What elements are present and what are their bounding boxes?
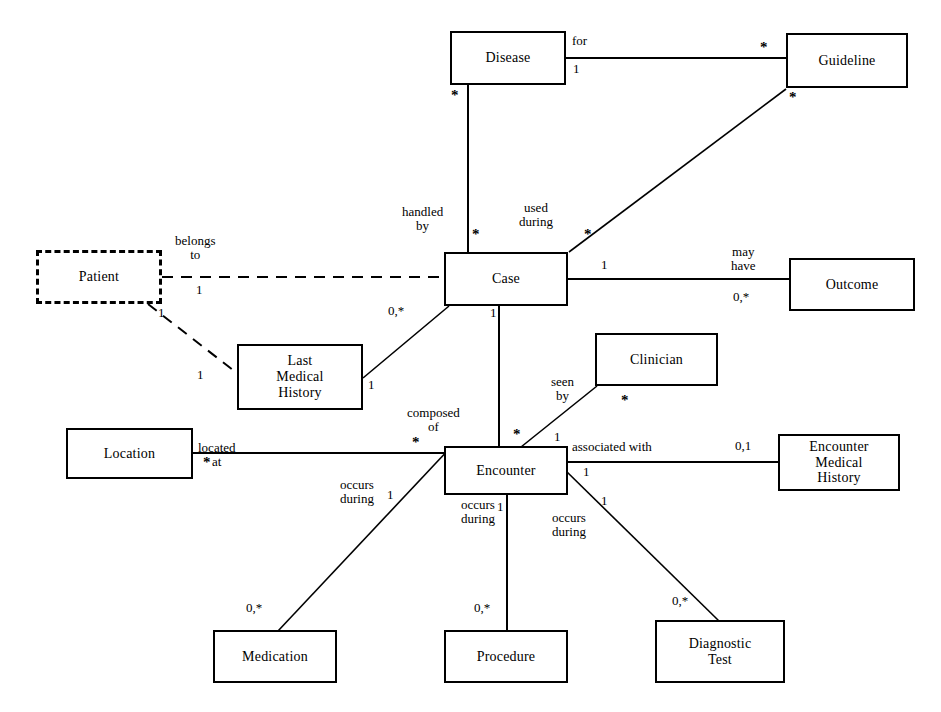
multiplicity-disease-handledby: * [451,88,459,103]
entity-procedure[interactable]: Procedure [444,630,568,683]
entity-patient[interactable]: Patient [36,250,162,304]
relationship-label-seen-by: seen by [551,375,574,402]
entity-diagnostic-test-label: Diagnostic Test [686,636,755,667]
multiplicity-diagnostictest-occursduring: 0,* [672,594,688,607]
relationship-label-handled-by: handled by [402,205,443,232]
multiplicity-case-composedof: 1 [490,306,497,319]
multiplicity-encounter-procedure: 1 [497,500,504,513]
entity-outcome[interactable]: Outcome [789,258,915,311]
relationship-edge-layer [0,0,941,712]
entity-case[interactable]: Case [444,252,568,306]
multiplicity-encounter-diagnostictest: 1 [601,494,608,507]
multiplicity-disease-for: 1 [573,62,580,75]
multiplicity-encounter-associatedwith: 1 [583,465,590,478]
multiplicity-location-locatedat: * [203,455,211,470]
entity-case-label: Case [489,271,523,287]
relationship-label-belongs-to: belongs to [175,234,215,261]
edge-guideline-case [569,89,786,252]
edge-encounter-medication [278,447,451,631]
relationship-label-composed-of: composed of [407,406,460,433]
relationship-label-may-have: may have [731,245,756,272]
relationship-label-used-during: used during [519,201,553,228]
entity-diagnostic-test[interactable]: Diagnostic Test [655,620,785,683]
multiplicity-medication-occursduring: 0,* [246,601,262,614]
multiplicity-case-lastmedicalhistory: 0,* [388,304,404,317]
entity-outcome-label: Outcome [823,277,882,293]
multiplicity-guideline-for: * [760,40,768,55]
entity-encounter-label: Encounter [473,463,538,479]
multiplicity-encounter-composedof: * [513,427,521,442]
entity-location-label: Location [101,446,158,462]
entity-disease[interactable]: Disease [450,31,566,85]
multiplicity-encounter-locatedat: * [412,435,420,450]
edge-case-lastmedicalhistory [363,306,449,378]
entity-last-medical-history-label: Last Medical History [273,353,326,400]
er-diagram-canvas: Disease Guideline Patient Case Outcome L… [0,0,941,712]
multiplicity-case-usedduring: * [584,227,592,242]
entity-last-medical-history[interactable]: Last Medical History [237,344,363,410]
entity-encounter[interactable]: Encounter [444,446,568,495]
entity-location[interactable]: Location [66,428,193,479]
multiplicity-guideline-usedduring: * [789,90,797,105]
multiplicity-clinician-seenby: * [621,393,629,408]
entity-encounter-medical-history[interactable]: Encounter Medical History [778,434,900,491]
relationship-label-associated-with: associated with [572,440,652,454]
multiplicity-procedure-occursduring: 0,* [474,601,490,614]
entity-medication[interactable]: Medication [213,630,337,683]
entity-guideline-label: Guideline [815,53,878,69]
multiplicity-lastmedicalhistory-case: 1 [368,378,375,391]
multiplicity-outcome-mayhave: 0,* [733,290,749,303]
multiplicity-patient-belongsto: 1 [196,283,203,296]
multiplicity-patient-lastmedicalhistory-upper: 1 [158,306,165,319]
entity-medication-label: Medication [239,649,311,665]
relationship-label-occurs-during-procedure: occurs during [461,498,495,525]
multiplicity-encounter-seenby: 1 [554,430,561,443]
entity-patient-label: Patient [76,269,122,285]
multiplicity-encounter-medication: 1 [387,488,394,501]
edge-encounter-diagnostictest [565,470,719,621]
entity-clinician-label: Clinician [627,352,686,368]
multiplicity-case-mayhave: 1 [601,258,608,271]
entity-encounter-medical-history-label: Encounter Medical History [806,439,871,486]
relationship-label-for: for [572,34,587,48]
relationship-label-occurs-during-diagnostictest: occurs during [552,511,586,538]
entity-guideline[interactable]: Guideline [786,33,908,88]
multiplicity-patient-lastmedicalhistory-lower: 1 [197,368,204,381]
multiplicity-case-handledby: * [472,227,480,242]
multiplicity-encountermedicalhistory-associatedwith: 0,1 [735,439,751,452]
relationship-label-occurs-during-medication: occurs during [340,478,374,505]
entity-clinician[interactable]: Clinician [595,333,718,386]
entity-disease-label: Disease [483,50,534,66]
entity-procedure-label: Procedure [474,649,539,665]
